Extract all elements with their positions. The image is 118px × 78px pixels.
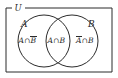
region-a-and-b-right-operand: B <box>60 36 66 45</box>
universal-set-label: U <box>13 4 23 13</box>
region-b-only-left-operand: A <box>76 37 81 45</box>
region-label-a-only: A∩B <box>19 37 37 45</box>
intersection-operator-icon: ∩ <box>53 36 60 45</box>
set-b-label: B <box>88 20 95 29</box>
region-a-only-right-operand: B <box>31 37 37 45</box>
region-b-only-right-operand: B <box>88 36 94 45</box>
set-a-label: A <box>21 20 28 29</box>
region-label-b-only: A∩B <box>76 37 94 45</box>
region-label-a-and-b: A∩B <box>48 37 66 45</box>
venn-diagram-figure: U A B A∩B A∩B A∩B <box>0 0 118 78</box>
